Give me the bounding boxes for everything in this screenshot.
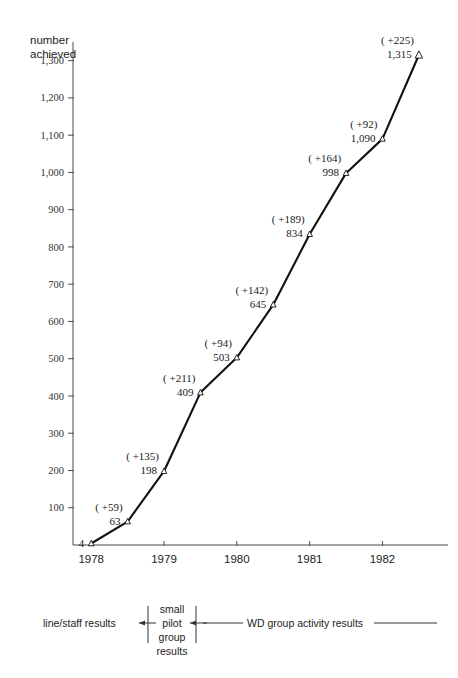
legend-phase-2-line3: group: [159, 631, 186, 643]
data-point-value-label: 409: [177, 386, 194, 398]
y-tick-label: 600: [48, 316, 64, 327]
data-point-marker: [415, 51, 422, 58]
x-tick-label: 1981: [297, 553, 323, 565]
chart-svg: 1002003004005006007008009001,0001,1001,2…: [0, 0, 458, 600]
legend-phase-2-line2: pilot: [162, 617, 181, 629]
line-chart: 1002003004005006007008009001,0001,1001,2…: [0, 0, 458, 600]
y-tick-label: 500: [48, 353, 64, 364]
data-point-value-label: 198: [141, 464, 158, 476]
y-tick-label: 100: [48, 502, 64, 513]
y-tick-label: 1,200: [40, 92, 64, 103]
data-point-value-label: 503: [213, 351, 230, 363]
data-point-delta-label: ( +164): [308, 152, 341, 165]
y-tick-label: 1,000: [40, 167, 64, 178]
data-point-delta-label: ( +189): [272, 213, 305, 226]
y-tick-label: 300: [48, 428, 64, 439]
legend-phase-3-label: WD group activity results: [247, 617, 363, 629]
y-axis-title-line2: achieved: [30, 48, 76, 60]
y-axis-title-line1: number: [30, 34, 69, 46]
data-point-delta-label: ( +211): [163, 372, 196, 385]
data-point-value-label: 645: [250, 298, 267, 310]
y-tick-label: 1,100: [40, 130, 64, 141]
chart-page: 1002003004005006007008009001,0001,1001,2…: [0, 0, 458, 678]
data-point-labels: 463( +59)198( +135)409( +211)503( +94)64…: [79, 34, 415, 548]
data-point-value-label: 4: [79, 537, 85, 549]
data-point-value-label: 998: [323, 166, 340, 178]
data-point-delta-label: ( +94): [205, 337, 233, 350]
phase-legend: line/staff results small pilot group res…: [0, 598, 458, 678]
data-point-delta-label: ( +92): [350, 118, 378, 131]
x-tick-label: 1982: [370, 553, 396, 565]
y-tick-label: 700: [48, 279, 64, 290]
y-tick-label: 200: [48, 465, 64, 476]
y-tick-label: 400: [48, 391, 64, 402]
data-point-value-label: 63: [110, 515, 122, 527]
data-point-value-label: 1,090: [351, 132, 376, 144]
legend-arrow-left-head: [139, 620, 145, 625]
legend-phase-2-line4: results: [157, 645, 188, 657]
legend-phase-2-line1: small: [160, 603, 185, 615]
x-tick-label: 1979: [151, 553, 177, 565]
y-axis-ticks: 1002003004005006007008009001,0001,1001,2…: [40, 55, 74, 513]
legend-svg: line/staff results small pilot group res…: [0, 598, 458, 678]
data-point-value-label: 834: [286, 227, 303, 239]
data-point-delta-label: ( +142): [235, 284, 268, 297]
data-point-delta-label: ( +135): [126, 450, 159, 463]
legend-arrow-mid-head: [190, 620, 196, 625]
data-point-value-label: 1,315: [387, 48, 412, 60]
y-tick-label: 900: [48, 204, 64, 215]
legend-phase-1-label: line/staff results: [43, 617, 116, 629]
y-tick-label: 800: [48, 242, 64, 253]
data-point-delta-label: ( +59): [95, 501, 123, 514]
x-tick-label: 1978: [78, 553, 104, 565]
x-tick-label: 1980: [224, 553, 250, 565]
data-point-delta-label: ( +225): [381, 34, 414, 47]
